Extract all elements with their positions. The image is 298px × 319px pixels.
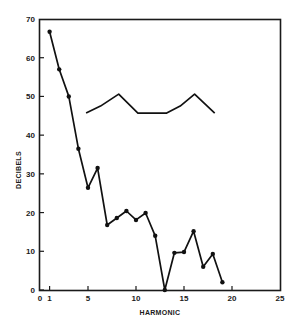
data-point-marker	[201, 265, 205, 269]
y-tick-label: 50	[26, 92, 35, 101]
data-point-marker	[182, 250, 186, 254]
x-axis-title: HARMONIC	[140, 309, 181, 316]
data-point-marker	[47, 30, 51, 34]
data-point-marker	[220, 280, 224, 284]
harmonic-series-line	[50, 32, 223, 290]
data-point-marker	[76, 146, 80, 150]
envelope-curve-line	[86, 94, 215, 113]
data-point-marker	[153, 234, 157, 238]
y-axis-ticks: 010203040506070	[26, 15, 44, 295]
x-tick-label: 15	[180, 294, 189, 303]
data-point-marker	[105, 223, 109, 227]
x-axis-ticks: 01510152025	[38, 286, 285, 303]
x-tick-label: 5	[86, 294, 91, 303]
y-tick-label: 40	[26, 131, 35, 140]
y-axis-title: DECIBELS	[15, 151, 22, 189]
y-tick-label: 70	[26, 15, 35, 24]
x-tick-label: 10	[132, 294, 141, 303]
series-layer	[47, 30, 224, 293]
data-point-marker	[95, 166, 99, 170]
data-point-marker	[86, 186, 90, 190]
y-tick-label: 0	[31, 286, 36, 295]
data-point-marker	[124, 209, 128, 213]
data-point-marker	[172, 251, 176, 255]
x-tick-label: 0	[38, 294, 43, 303]
data-point-marker	[57, 67, 61, 71]
data-point-marker	[67, 94, 71, 98]
data-point-marker	[115, 216, 119, 220]
plot-frame	[40, 20, 281, 291]
y-tick-label: 10	[26, 247, 35, 256]
data-point-marker	[143, 211, 147, 215]
y-tick-label: 20	[26, 209, 35, 218]
x-tick-label: 20	[228, 294, 237, 303]
data-point-marker	[134, 218, 138, 222]
y-tick-label: 60	[26, 54, 35, 63]
x-tick-label: 1	[47, 294, 52, 303]
y-tick-label: 30	[26, 170, 35, 179]
data-point-marker	[163, 288, 167, 292]
x-tick-label: 25	[276, 294, 285, 303]
data-point-marker	[211, 252, 215, 256]
harmonic-decibel-chart: 010203040506070 01510152025 HARMONIC DEC…	[0, 0, 298, 319]
data-point-marker	[191, 229, 195, 233]
